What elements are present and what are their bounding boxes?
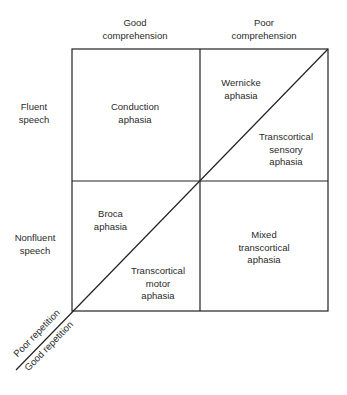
cell-line: aphasia bbox=[105, 114, 165, 127]
cell-line: aphasia bbox=[233, 254, 295, 267]
column-header-good-comprehension: Good comprehension bbox=[100, 17, 170, 42]
cell-transcortical-motor-aphasia: Transcortical motor aphasia bbox=[128, 265, 188, 303]
cell-line: aphasia bbox=[128, 290, 188, 303]
header-line: Fluent bbox=[14, 101, 54, 114]
cell-line: Transcortical bbox=[128, 265, 188, 278]
header-line: speech bbox=[14, 114, 54, 127]
header-line: comprehension bbox=[100, 30, 170, 43]
cell-transcortical-sensory-aphasia: Transcortical sensory aphasia bbox=[256, 131, 316, 169]
header-line: Good bbox=[100, 17, 170, 30]
cell-line: Transcortical bbox=[256, 131, 316, 144]
cell-line: aphasia bbox=[256, 156, 316, 169]
cell-line: Conduction bbox=[105, 101, 165, 114]
header-line: comprehension bbox=[229, 30, 299, 43]
cell-line: transcortical bbox=[233, 242, 295, 255]
cell-wernicke-aphasia: Wernicke aphasia bbox=[216, 77, 266, 102]
cell-mixed-transcortical-aphasia: Mixed transcortical aphasia bbox=[233, 229, 295, 267]
header-line: Poor bbox=[229, 17, 299, 30]
cell-broca-aphasia: Broca aphasia bbox=[88, 208, 133, 233]
cell-line: Mixed bbox=[233, 229, 295, 242]
cell-line: sensory bbox=[256, 144, 316, 157]
row-header-nonfluent-speech: Nonfluent speech bbox=[10, 232, 60, 257]
cell-line: aphasia bbox=[88, 221, 133, 234]
header-line: Nonfluent bbox=[10, 232, 60, 245]
cell-line: motor bbox=[128, 278, 188, 291]
cell-line: aphasia bbox=[216, 90, 266, 103]
cell-line: Broca bbox=[88, 208, 133, 221]
cell-conduction-aphasia: Conduction aphasia bbox=[105, 101, 165, 126]
column-header-poor-comprehension: Poor comprehension bbox=[229, 17, 299, 42]
header-line: speech bbox=[10, 245, 60, 258]
row-header-fluent-speech: Fluent speech bbox=[14, 101, 54, 126]
cell-line: Wernicke bbox=[216, 77, 266, 90]
